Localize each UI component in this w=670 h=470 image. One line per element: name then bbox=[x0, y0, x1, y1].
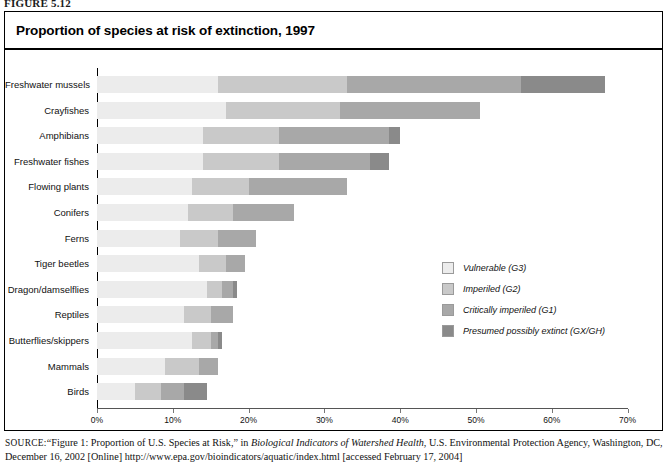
legend-item: Vulnerable (G3) bbox=[442, 257, 605, 278]
bar-segment bbox=[97, 76, 218, 93]
category-label: Birds bbox=[5, 379, 89, 404]
x-axis-tick bbox=[628, 409, 629, 413]
legend-swatch-icon bbox=[442, 283, 454, 295]
x-axis-tick-label: 60% bbox=[543, 415, 560, 425]
bar-segment bbox=[165, 358, 199, 375]
x-axis-tick bbox=[97, 409, 98, 413]
bar-segment bbox=[233, 204, 294, 221]
stacked-bar bbox=[97, 102, 658, 119]
bar-row: Conifers bbox=[5, 200, 662, 225]
bar-segment bbox=[180, 230, 218, 247]
bar-segment bbox=[97, 230, 180, 247]
x-axis-tick bbox=[324, 409, 325, 413]
stacked-bar bbox=[97, 204, 658, 221]
bar-row: Freshwater mussels bbox=[5, 72, 662, 97]
bar-segment bbox=[161, 383, 184, 400]
bar-segment bbox=[203, 127, 279, 144]
chart-title: Proportion of species at risk of extinct… bbox=[16, 23, 315, 38]
source-label: SOURCE: bbox=[5, 438, 47, 448]
x-axis-tick bbox=[249, 409, 250, 413]
category-label: Ferns bbox=[5, 226, 89, 251]
chart-plot-area: Freshwater musselsCrayfishesAmphibiansFr… bbox=[5, 50, 662, 430]
stacked-bar bbox=[97, 178, 658, 195]
bar-segment bbox=[203, 153, 279, 170]
stacked-bar bbox=[97, 127, 658, 144]
stacked-bar bbox=[97, 153, 658, 170]
x-axis-tick bbox=[476, 409, 477, 413]
bar-segment bbox=[97, 153, 203, 170]
source-publication-title: Biological Indicators of Watershed Healt… bbox=[251, 437, 424, 448]
chart-legend: Vulnerable (G3)Imperiled (G2)Critically … bbox=[442, 257, 605, 341]
stacked-bar bbox=[97, 383, 658, 400]
legend-label: Imperiled (G2) bbox=[463, 284, 521, 294]
bar-segment bbox=[207, 281, 222, 298]
category-label: Freshwater mussels bbox=[5, 72, 89, 97]
category-label: Conifers bbox=[5, 200, 89, 225]
legend-swatch-icon bbox=[442, 325, 454, 337]
bar-segment bbox=[389, 127, 400, 144]
bar-segment bbox=[97, 178, 192, 195]
bar-segment bbox=[97, 255, 199, 272]
legend-item: Critically imperiled (G1) bbox=[442, 299, 605, 320]
source-note: SOURCE:“Figure 1: Proportion of U.S. Spe… bbox=[5, 436, 665, 463]
bar-segment bbox=[211, 332, 219, 349]
bar-segment bbox=[97, 383, 135, 400]
stacked-bar bbox=[97, 358, 658, 375]
category-label: Freshwater fishes bbox=[5, 149, 89, 174]
bar-segment bbox=[97, 358, 165, 375]
x-axis-tick-label: 20% bbox=[240, 415, 257, 425]
category-label: Mammals bbox=[5, 354, 89, 379]
stacked-bar bbox=[97, 76, 658, 93]
category-label: Tiger beetles bbox=[5, 251, 89, 276]
bar-segment bbox=[370, 153, 389, 170]
bar-segment bbox=[97, 281, 207, 298]
bar-row: Crayfishes bbox=[5, 98, 662, 123]
bar-segment bbox=[218, 76, 347, 93]
bar-segment bbox=[521, 76, 604, 93]
bar-row: Birds bbox=[5, 379, 662, 404]
category-label: Amphibians bbox=[5, 123, 89, 148]
bar-segment bbox=[226, 255, 245, 272]
category-label: Butterflies/skippers bbox=[5, 328, 89, 353]
figure-panel: Proportion of species at risk of extinct… bbox=[4, 11, 663, 431]
legend-label: Critically imperiled (G1) bbox=[463, 305, 557, 315]
x-axis-tick bbox=[552, 409, 553, 413]
bar-segment bbox=[340, 102, 480, 119]
x-axis-tick-label: 40% bbox=[392, 415, 409, 425]
bar-segment bbox=[222, 281, 233, 298]
bar-row: Amphibians bbox=[5, 123, 662, 148]
figure-caption: FIGURE 5.12 bbox=[4, 0, 71, 9]
legend-item: Imperiled (G2) bbox=[442, 278, 605, 299]
bar-segment bbox=[97, 306, 184, 323]
bar-segment bbox=[199, 358, 218, 375]
x-axis-tick bbox=[173, 409, 174, 413]
x-axis-tick-label: 30% bbox=[316, 415, 333, 425]
category-label: Dragon/damselflies bbox=[5, 277, 89, 302]
bar-segment bbox=[347, 76, 521, 93]
legend-item: Presumed possibly extinct (GX/GH) bbox=[442, 320, 605, 341]
bar-segment bbox=[211, 306, 234, 323]
category-label: Flowing plants bbox=[5, 174, 89, 199]
bar-segment bbox=[233, 281, 237, 298]
bar-segment bbox=[97, 332, 192, 349]
bar-segment bbox=[279, 127, 389, 144]
legend-swatch-icon bbox=[442, 304, 454, 316]
bar-row: Freshwater fishes bbox=[5, 149, 662, 174]
x-axis-tick-label: 10% bbox=[164, 415, 181, 425]
bar-segment bbox=[135, 383, 162, 400]
bar-row: Mammals bbox=[5, 354, 662, 379]
category-label: Crayfishes bbox=[5, 98, 89, 123]
x-axis-tick-label: 70% bbox=[619, 415, 636, 425]
x-axis-tick bbox=[400, 409, 401, 413]
bar-segment bbox=[226, 102, 340, 119]
source-text-1: “Figure 1: Proportion of U.S. Species at… bbox=[47, 437, 251, 448]
bar-segment bbox=[199, 255, 226, 272]
bar-row: Ferns bbox=[5, 226, 662, 251]
x-axis-tick-label: 50% bbox=[467, 415, 484, 425]
bar-segment bbox=[184, 383, 207, 400]
bar-segment bbox=[279, 153, 370, 170]
bar-segment bbox=[97, 204, 188, 221]
bar-segment bbox=[188, 204, 233, 221]
stacked-bar bbox=[97, 230, 658, 247]
bar-segment bbox=[218, 230, 256, 247]
